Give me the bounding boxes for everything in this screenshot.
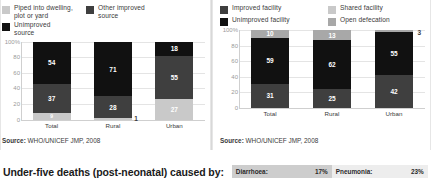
bar-segment: 55 [155, 56, 193, 99]
bar-segment: 54 [33, 42, 71, 84]
legend-label-open-defecation: Open defecation [340, 16, 390, 24]
bar-total: 54379 [33, 42, 71, 120]
legend-label-other-improved: Other improved source [98, 4, 148, 21]
bar-segment: 42 [375, 75, 413, 108]
water-plot: 100% 80 60 40 20 0 5437971281185527 Tota… [2, 42, 207, 130]
sanitation-y-axis: 100% 80 60 40 20 0 [220, 30, 238, 108]
y-tick: 80 [231, 43, 238, 49]
category-label: Total [33, 122, 71, 129]
bar-segment: 9 [33, 113, 71, 120]
category-label: Rural [313, 110, 351, 117]
y-tick: 20 [231, 89, 238, 95]
bar-segment: 25 [313, 89, 351, 109]
stat-pneumonia-label: Pneumonia: [336, 168, 373, 175]
bar-urban: 185527 [155, 42, 193, 120]
water-category-labels: Total Rural Urban [21, 122, 205, 129]
bar-segment: 55 [375, 32, 413, 75]
legend-item-open-defecation: Open defecation [328, 16, 422, 26]
cause-stats: Diarrhoea: 17% Pneumonia: 23% [232, 165, 428, 178]
sanitation-category-labels: Total Rural Urban [239, 110, 425, 117]
legend-swatch-unimproved-source-icon [2, 23, 10, 31]
water-source-label: Source: [2, 137, 26, 144]
y-tick: 40 [13, 85, 20, 91]
y-tick: 100% [223, 27, 238, 33]
stat-diarrhoea-value: 17% [301, 168, 328, 175]
sanitation-plot: 100% 80 60 40 20 0 10593113622535542 Tot… [220, 30, 427, 118]
legend-label-improved-facility: Improved facility [232, 4, 281, 12]
bar-segment: 28 [94, 96, 132, 118]
y-tick: 80 [13, 54, 20, 60]
sanitation-source-text: WHO/UNICEF JMP, 2008 [246, 137, 319, 144]
bar-segment: 37 [33, 84, 71, 113]
water-legend: Piped into dwelling, plot or yard Other … [2, 4, 207, 38]
y-tick: 100% [5, 39, 20, 45]
legend-item-other-improved: Other improved source [86, 4, 148, 21]
sanitation-panel: Improved facility Shared facility Unimpr… [211, 0, 431, 150]
bar-segment: 59 [251, 38, 289, 84]
water-y-axis: 100% 80 60 40 20 0 [2, 42, 20, 120]
stat-pneumonia-value: 23% [397, 168, 424, 175]
sanitation-legend: Improved facility Shared facility Unimpr… [220, 4, 427, 26]
legend-swatch-unimproved-facility-icon [220, 18, 228, 26]
legend-swatch-improved-facility-icon [220, 6, 228, 14]
y-tick: 0 [235, 105, 238, 111]
water-source: Source: WHO/UNICEF JMP, 2008 [2, 137, 100, 144]
category-label: Urban [155, 122, 193, 129]
under-five-deaths-title: Under-five deaths (post-neonatal) caused… [3, 166, 224, 178]
stat-diarrhoea: Diarrhoea: 17% [232, 165, 332, 178]
legend-item-unimproved-facility: Unimproved facility [220, 16, 322, 26]
bar-segment: 62 [313, 40, 351, 88]
bar-segment-value: 3 [417, 29, 421, 36]
legend-label-shared-facility: Shared facility [340, 4, 383, 12]
sanitation-source-label: Source: [220, 137, 244, 144]
sanitation-source: Source: WHO/UNICEF JMP, 2008 [220, 137, 318, 144]
infographic-page: Piped into dwelling, plot or yard Other … [0, 0, 431, 189]
category-label: Rural [94, 122, 132, 129]
bar-urban: 35542 [375, 30, 413, 108]
water-source-text: WHO/UNICEF JMP, 2008 [28, 137, 101, 144]
y-tick: 40 [231, 74, 238, 80]
legend-item-shared-facility: Shared facility [328, 4, 422, 14]
stat-pneumonia: Pneumonia: 23% [332, 165, 428, 178]
water-bars: 5437971281185527 [21, 42, 205, 120]
charts-row: Piped into dwelling, plot or yard Other … [0, 0, 431, 150]
bar-segment: 31 [251, 84, 289, 108]
legend-label-unimproved-facility: Unimproved facility [232, 16, 290, 24]
legend-swatch-piped-icon [2, 6, 10, 14]
sanitation-bars: 10593113622535542 [239, 30, 425, 108]
under-five-deaths-strip: Under-five deaths (post-neonatal) caused… [0, 152, 431, 189]
legend-item-unimproved-source: Unimproved source [2, 21, 60, 38]
legend-item-improved-facility: Improved facility [220, 4, 322, 14]
bar-total: 105931 [251, 30, 289, 108]
drinking-water-panel: Piped into dwelling, plot or yard Other … [0, 0, 211, 150]
legend-label-piped: Piped into dwelling, plot or yard [14, 4, 80, 21]
bar-segment: 71 [94, 42, 132, 97]
bar-segment-value: 1 [134, 115, 138, 122]
bar-segment: 10 [251, 30, 289, 38]
bar-segment: 13 [313, 30, 351, 40]
y-tick: 0 [17, 117, 20, 123]
category-label: Urban [375, 110, 413, 117]
y-tick: 20 [13, 101, 20, 107]
bar-rural: 71281 [94, 42, 132, 120]
legend-swatch-open-defecation-icon [328, 18, 336, 26]
stat-diarrhoea-label: Diarrhoea: [236, 168, 268, 175]
bar-segment: 18 [155, 42, 193, 56]
bar-segment: 27 [155, 99, 193, 120]
legend-swatch-shared-facility-icon [328, 6, 336, 14]
y-tick: 60 [231, 58, 238, 64]
category-label: Total [251, 110, 289, 117]
y-tick: 60 [13, 70, 20, 76]
bar-segment [94, 118, 132, 120]
legend-item-piped: Piped into dwelling, plot or yard [2, 4, 80, 21]
bar-rural: 136225 [313, 30, 351, 108]
legend-label-unimproved-source: Unimproved source [14, 21, 60, 38]
legend-swatch-other-improved-icon [86, 6, 94, 14]
